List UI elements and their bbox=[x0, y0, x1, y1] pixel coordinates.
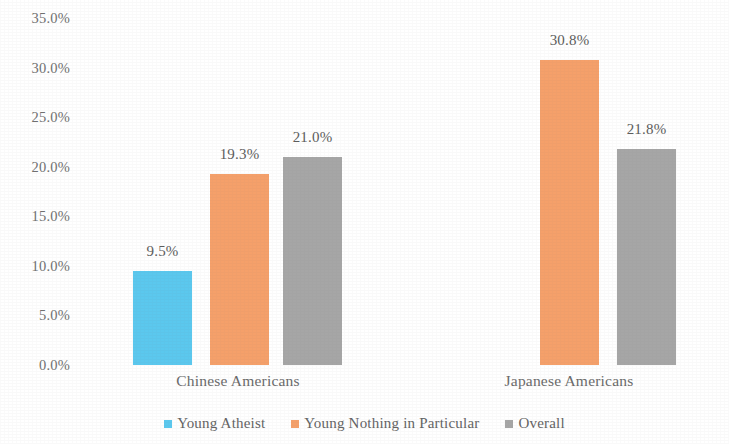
legend-item-label: Overall bbox=[518, 415, 564, 432]
bar-value-label-chinese-young-nothing-in-particular: 19.3% bbox=[220, 146, 260, 163]
legend-item-overall[interactable]: Overall bbox=[505, 415, 564, 432]
y-axis-tick-label: 10.0% bbox=[8, 257, 70, 274]
legend-swatch-icon bbox=[164, 420, 172, 428]
x-axis-category-chinese-americans: Chinese Americans bbox=[176, 372, 300, 390]
y-axis-tick-label: 25.0% bbox=[8, 109, 70, 126]
y-axis-tick-label: 0.0% bbox=[8, 357, 70, 374]
legend-item-young-atheist[interactable]: Young Atheist bbox=[164, 415, 265, 432]
chart-legend: Young Atheist Young Nothing in Particula… bbox=[0, 415, 729, 432]
legend-item-label: Young Atheist bbox=[177, 415, 265, 432]
y-axis-tick-label: 35.0% bbox=[8, 10, 70, 27]
legend-swatch-icon bbox=[505, 420, 513, 428]
bar-value-label-chinese-young-atheist: 9.5% bbox=[146, 243, 178, 260]
plot-area bbox=[78, 18, 718, 365]
y-axis-tick-label: 15.0% bbox=[8, 208, 70, 225]
y-axis: 35.0% 30.0% 25.0% 20.0% 15.0% 10.0% 5.0%… bbox=[0, 18, 70, 365]
chart-canvas: 35.0% 30.0% 25.0% 20.0% 15.0% 10.0% 5.0%… bbox=[0, 0, 729, 444]
bar-value-label-chinese-overall: 21.0% bbox=[293, 129, 333, 146]
legend-swatch-icon bbox=[291, 420, 299, 428]
bar-japanese-overall[interactable] bbox=[617, 149, 676, 365]
x-axis-category-japanese-americans: Japanese Americans bbox=[505, 372, 634, 390]
bar-value-label-japanese-young-nothing-in-particular: 30.8% bbox=[550, 32, 590, 49]
y-axis-tick-label: 20.0% bbox=[8, 158, 70, 175]
legend-item-label: Young Nothing in Particular bbox=[304, 415, 479, 432]
y-axis-tick-label: 30.0% bbox=[8, 59, 70, 76]
bar-value-label-japanese-overall: 21.8% bbox=[627, 121, 667, 138]
bar-chinese-young-nothing-in-particular[interactable] bbox=[210, 174, 269, 365]
y-axis-tick-label: 5.0% bbox=[8, 307, 70, 324]
bar-chinese-overall[interactable] bbox=[283, 157, 342, 365]
bar-japanese-young-nothing-in-particular[interactable] bbox=[540, 60, 599, 365]
legend-item-young-nothing-in-particular[interactable]: Young Nothing in Particular bbox=[291, 415, 479, 432]
bar-chinese-young-atheist[interactable] bbox=[133, 271, 192, 365]
